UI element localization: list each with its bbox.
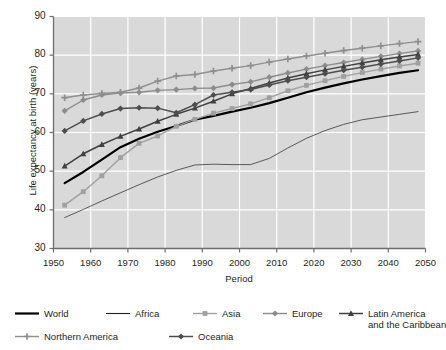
legend-swatch-none-icon — [105, 308, 131, 319]
data-point-marker — [155, 134, 160, 139]
data-point-marker — [99, 173, 104, 178]
data-point-marker — [62, 203, 67, 208]
legend-label: Oceania — [198, 331, 233, 342]
data-point-marker — [248, 101, 253, 106]
data-point-marker — [203, 311, 208, 316]
data-point-marker — [397, 64, 402, 69]
data-point-marker — [360, 70, 365, 75]
data-point-marker — [341, 74, 346, 79]
legend-label: Europe — [292, 308, 323, 319]
data-point-marker — [230, 106, 235, 111]
data-point-marker — [174, 124, 179, 129]
data-point-marker — [304, 83, 309, 88]
data-point-marker — [192, 117, 197, 122]
legend-label: Northern America — [44, 331, 118, 342]
data-point-marker — [272, 310, 278, 316]
data-point-marker — [81, 189, 86, 194]
legend-swatch-none-icon — [14, 308, 40, 319]
legend-label-line1: Latin America — [368, 308, 446, 319]
legend-swatch-plus-icon — [14, 331, 40, 342]
legend-swatch-diamond-icon — [262, 308, 288, 319]
data-point-marker — [178, 333, 184, 339]
legend-label: Latin Americaand the Caribbean — [368, 308, 446, 330]
data-point-marker — [416, 61, 421, 66]
data-point-marker — [118, 155, 123, 160]
life-expectancy-line-chart: Life expectancy at birth (years) Period … — [0, 0, 446, 350]
legend-label-line1: Oceania — [198, 331, 233, 342]
legend-label: Asia — [222, 308, 240, 319]
legend-label: Africa — [135, 308, 159, 319]
data-point-marker — [285, 88, 290, 93]
data-point-marker — [24, 333, 31, 340]
legend-label: World — [44, 308, 69, 319]
legend-swatch-square-icon — [192, 308, 218, 319]
legend-label-line1: World — [44, 308, 69, 319]
legend-swatch-triangle-icon — [338, 308, 364, 319]
data-point-marker — [267, 95, 272, 100]
legend-label-line2: and the Caribbean — [368, 319, 446, 330]
chart-legend: WorldAfricaAsiaEuropeLatin Americaand th… — [0, 298, 446, 350]
data-point-marker — [211, 111, 216, 116]
legend-label-line1: Africa — [135, 308, 159, 319]
legend-label-line1: Asia — [222, 308, 240, 319]
data-point-marker — [378, 67, 383, 72]
legend-label-line1: Europe — [292, 308, 323, 319]
legend-label-line1: Northern America — [44, 331, 118, 342]
data-point-marker — [137, 141, 142, 146]
legend-swatch-diamond-icon — [168, 331, 194, 342]
data-point-marker — [323, 78, 328, 83]
